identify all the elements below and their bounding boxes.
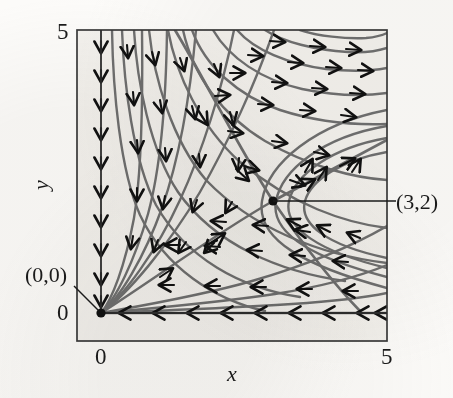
y-tick-0: 0 [57, 301, 69, 324]
y-tick-5: 5 [57, 20, 69, 43]
y-axis-label: y [28, 180, 54, 190]
phase-portrait-figure [0, 0, 453, 398]
x-axis-label: x [227, 361, 237, 387]
x-tick-5: 5 [381, 345, 393, 368]
origin-annotation-label: (0,0) [25, 262, 67, 288]
x-tick-0: 0 [95, 345, 107, 368]
saddle-annotation-label: (3,2) [396, 189, 438, 215]
